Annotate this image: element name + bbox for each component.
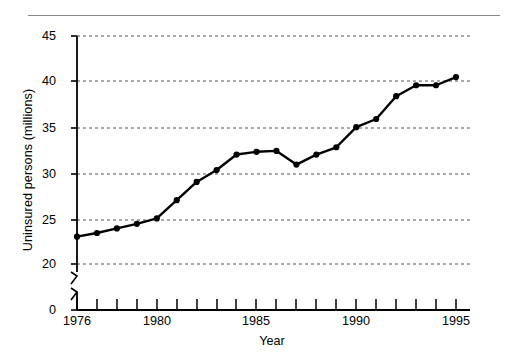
data-point-1991 (373, 116, 379, 122)
plot-svg (0, 0, 524, 360)
data-point-1988 (313, 151, 319, 157)
x-tick-marks (77, 299, 456, 310)
data-point-1995 (453, 74, 459, 80)
data-point-1980 (154, 215, 160, 221)
data-series-line (77, 77, 456, 237)
data-point-1978 (114, 225, 120, 231)
data-series-markers (74, 74, 459, 240)
data-point-1984 (233, 151, 239, 157)
data-point-1989 (333, 144, 339, 150)
data-point-1982 (194, 179, 200, 185)
data-point-1977 (94, 230, 100, 236)
data-point-1986 (273, 148, 279, 154)
data-point-1992 (393, 93, 399, 99)
data-point-1994 (433, 82, 439, 88)
y-axis-break-mark-upper (71, 272, 77, 284)
data-point-1985 (253, 149, 259, 155)
data-point-1981 (174, 197, 180, 203)
data-point-1993 (413, 82, 419, 88)
data-point-1979 (134, 221, 140, 227)
data-point-1987 (293, 161, 299, 167)
data-point-1976 (74, 234, 80, 240)
data-point-1983 (214, 167, 220, 173)
data-point-1990 (353, 124, 359, 130)
figure-canvas: Uninsured persons (millions) Year 45 40 … (0, 0, 524, 360)
